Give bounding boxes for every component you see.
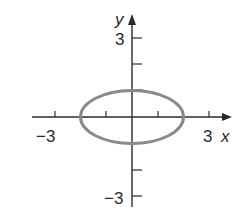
x-axis-label: x (220, 127, 230, 146)
y-axis-label: y (114, 10, 125, 29)
x-tick-label-neg3: −3 (36, 127, 55, 146)
x-tick-label-3: 3 (203, 127, 212, 146)
y-tick-label-neg3: −3 (104, 189, 123, 208)
ellipse-graph: −3 3 x y 3 −3 (0, 0, 242, 222)
y-axis-arrow-icon (128, 14, 136, 25)
y-tick-label-3: 3 (115, 30, 124, 49)
x-axis-arrow-icon (222, 113, 232, 121)
